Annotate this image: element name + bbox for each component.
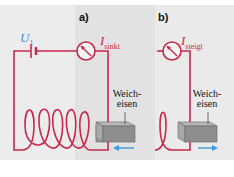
soft-iron-b-label: Weich- eisen — [190, 89, 224, 109]
ammeter-b-icon — [163, 42, 181, 60]
soft-iron-a-icon — [96, 112, 135, 142]
circuit-a — [14, 51, 108, 150]
iron-label-line2: eisen — [110, 99, 144, 109]
soft-iron-a-label: Weich- eisen — [110, 89, 144, 109]
panel-b-label: b) — [158, 11, 168, 23]
iron-label-line2: eisen — [190, 99, 224, 109]
panel-a-label: a) — [79, 11, 89, 23]
voltage-label: U1 — [20, 30, 33, 48]
arrow-left-icon — [113, 145, 134, 151]
soft-iron-b-icon — [178, 112, 217, 142]
current-steigt-label: Isteigt — [181, 33, 203, 51]
coil-a — [22, 109, 90, 150]
ammeter-a-icon — [77, 42, 95, 60]
diagram: a) b) U1 Isinkt Isteigt Weich- eisen Wei… — [0, 0, 234, 177]
arrow-right-icon — [198, 145, 218, 151]
current-sinkt-label: Isinkt — [100, 33, 120, 51]
coil-b — [155, 112, 172, 150]
